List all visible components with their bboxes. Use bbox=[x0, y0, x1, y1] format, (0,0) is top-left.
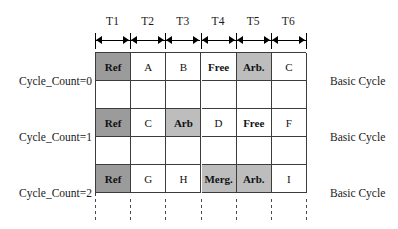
cell-t6-row2: I bbox=[272, 165, 307, 193]
cell-empty-t3 bbox=[166, 81, 201, 109]
cycle-grid: RefABFreeArb.CRefCArbDFreeFRefGHMerg.Arb… bbox=[95, 52, 306, 196]
column-span-arrows bbox=[95, 33, 306, 49]
cell-t2-row2: G bbox=[131, 165, 166, 193]
cycle-row: RefCArbDFreeF bbox=[96, 109, 307, 137]
boundary-dash-tick bbox=[306, 199, 307, 221]
cell-t2-row1: C bbox=[131, 109, 166, 137]
boundary-dash-tick bbox=[201, 199, 202, 221]
cell-empty-t3 bbox=[166, 137, 201, 165]
boundary-dash-tick bbox=[236, 199, 237, 221]
timing-diagram: T1T2T3T4T5T6 RefABFreeArb.CRefCArbDFreeF… bbox=[0, 0, 398, 229]
arrow-head-left-icon bbox=[131, 36, 137, 44]
column-header-t6: T6 bbox=[271, 13, 306, 29]
basic-cycle-label-1: Basic Cycle bbox=[330, 130, 385, 144]
cell-t5-row2: Arb. bbox=[237, 165, 272, 193]
cell-label: I bbox=[272, 165, 306, 193]
cell-t3-row1: Arb bbox=[166, 109, 201, 137]
cell-empty-t4 bbox=[202, 81, 237, 109]
boundary-dash-tick bbox=[95, 199, 96, 221]
arrow-head-left-icon bbox=[166, 36, 172, 44]
cell-t5-row0: Arb. bbox=[237, 53, 272, 81]
arrow-head-left-icon bbox=[96, 36, 102, 44]
cell-empty-t1 bbox=[96, 81, 131, 109]
cell-t1-row2: Ref bbox=[96, 165, 131, 193]
cell-t4-row1: D bbox=[202, 109, 237, 137]
arrow-boundary-tick bbox=[271, 33, 272, 49]
basic-cycle-label-2: Basic Cycle bbox=[330, 186, 385, 200]
span-arrow-t1 bbox=[95, 33, 130, 49]
cell-t1-row0: Ref bbox=[96, 53, 131, 81]
cell-label: Free bbox=[237, 109, 271, 137]
span-arrow-t6 bbox=[271, 33, 306, 49]
grid-spacer-row bbox=[96, 137, 307, 165]
arrow-boundary-tick bbox=[165, 33, 166, 49]
arrow-head-left-icon bbox=[202, 36, 208, 44]
cell-label: Ref bbox=[96, 165, 130, 193]
cycle-count-label-2: Cycle_Count=2 bbox=[19, 186, 92, 200]
cell-label: C bbox=[131, 109, 165, 137]
cell-t2-row0: A bbox=[131, 53, 166, 81]
arrow-head-right-icon bbox=[299, 36, 305, 44]
cell-t6-row0: C bbox=[272, 53, 307, 81]
cycle-row: RefGHMerg.Arb.I bbox=[96, 165, 307, 193]
arrow-boundary-tick bbox=[236, 33, 237, 49]
cell-empty-t6 bbox=[272, 81, 307, 109]
cell-label: Merg. bbox=[202, 165, 236, 193]
cell-label: Free bbox=[202, 53, 236, 81]
cell-t5-row1: Free bbox=[237, 109, 272, 137]
column-header-t2: T2 bbox=[130, 13, 165, 29]
cell-label: Ref bbox=[96, 109, 130, 137]
cell-label: Arb. bbox=[237, 53, 271, 81]
cell-t4-row0: Free bbox=[202, 53, 237, 81]
arrow-boundary-tick bbox=[306, 33, 307, 49]
span-arrow-t3 bbox=[165, 33, 200, 49]
arrow-boundary-tick bbox=[201, 33, 202, 49]
span-arrow-t4 bbox=[201, 33, 236, 49]
cycle-row: RefABFreeArb.C bbox=[96, 53, 307, 81]
column-header-t4: T4 bbox=[201, 13, 236, 29]
cell-empty-t6 bbox=[272, 137, 307, 165]
cell-label: D bbox=[202, 109, 236, 137]
cell-label: Arb bbox=[166, 109, 200, 137]
boundary-dash-tick bbox=[271, 199, 272, 221]
arrow-head-left-icon bbox=[272, 36, 278, 44]
cell-label: Ref bbox=[96, 53, 130, 81]
arrow-head-right-icon bbox=[264, 36, 270, 44]
cell-label: A bbox=[131, 53, 165, 81]
cycle-count-label-1: Cycle_Count=1 bbox=[19, 130, 92, 144]
basic-cycle-label-0: Basic Cycle bbox=[330, 74, 385, 88]
cell-empty-t2 bbox=[131, 81, 166, 109]
boundary-dash-tick bbox=[165, 199, 166, 221]
cycle-count-label-0: Cycle_Count=0 bbox=[19, 74, 92, 88]
arrow-head-right-icon bbox=[158, 36, 164, 44]
span-arrow-t5 bbox=[236, 33, 271, 49]
cell-t3-row0: B bbox=[166, 53, 201, 81]
arrow-boundary-tick bbox=[130, 33, 131, 49]
cell-t1-row1: Ref bbox=[96, 109, 131, 137]
cell-t6-row1: F bbox=[272, 109, 307, 137]
column-header-t3: T3 bbox=[165, 13, 200, 29]
cell-empty-t2 bbox=[131, 137, 166, 165]
arrow-head-left-icon bbox=[237, 36, 243, 44]
arrow-boundary-tick bbox=[95, 33, 96, 49]
grid-spacer-row bbox=[96, 81, 307, 109]
cell-empty-t5 bbox=[237, 81, 272, 109]
cell-t4-row2: Merg. bbox=[202, 165, 237, 193]
arrow-head-right-icon bbox=[229, 36, 235, 44]
column-header-t1: T1 bbox=[95, 13, 130, 29]
arrow-head-right-icon bbox=[123, 36, 129, 44]
cell-label: H bbox=[166, 165, 200, 193]
cell-t3-row2: H bbox=[166, 165, 201, 193]
arrow-head-right-icon bbox=[193, 36, 199, 44]
cell-label: Arb. bbox=[237, 165, 271, 193]
cell-empty-t4 bbox=[202, 137, 237, 165]
column-header-t5: T5 bbox=[236, 13, 271, 29]
boundary-dash-tick bbox=[130, 199, 131, 221]
cell-label: C bbox=[272, 53, 306, 81]
cell-empty-t5 bbox=[237, 137, 272, 165]
cell-label: G bbox=[131, 165, 165, 193]
cell-label: F bbox=[272, 109, 306, 137]
span-arrow-t2 bbox=[130, 33, 165, 49]
cell-empty-t1 bbox=[96, 137, 131, 165]
cell-label: B bbox=[166, 53, 200, 81]
